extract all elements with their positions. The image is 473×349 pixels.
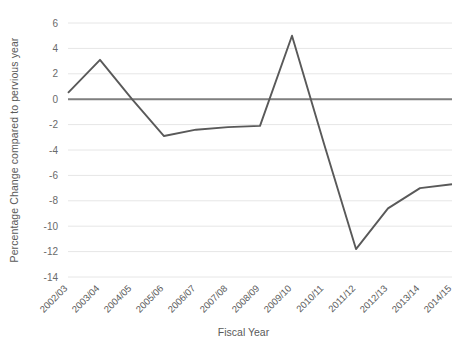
y-axis-ticks-group: 6420-2-4-6-8-10-12-14 — [44, 18, 59, 283]
x-axis-title-text: Fiscal Year — [218, 326, 269, 338]
plot-area: 6420-2-4-6-8-10-12-14 2002/032003/042004… — [0, 0, 473, 349]
x-axis-tick-label: 2005/06 — [133, 283, 165, 315]
y-axis-tick-label: -2 — [49, 119, 58, 130]
y-axis-tick-label: -8 — [49, 195, 58, 206]
data-line — [68, 36, 452, 249]
x-axis-tick-label: 2013/14 — [389, 283, 421, 315]
x-axis-tick-label: 2004/05 — [101, 283, 133, 315]
line-chart: Percentage Change compared to pervious y… — [0, 0, 473, 349]
y-axis-tick-label: 0 — [52, 94, 58, 105]
x-axis-ticks-group: 2002/032003/042004/052005/062006/072007/… — [37, 283, 453, 315]
gridlines-group — [68, 23, 452, 277]
x-axis-tick-label: 2007/08 — [197, 283, 229, 315]
y-axis-tick-label: -4 — [49, 145, 58, 156]
data-series-group — [68, 36, 452, 249]
x-axis-tick-label: 2003/04 — [69, 283, 101, 315]
x-axis-tick-label: 2010/11 — [294, 283, 326, 315]
y-axis-tick-label: 6 — [52, 18, 58, 29]
x-axis-tick-label: 2008/09 — [229, 283, 261, 315]
x-axis-tick-label: 2012/13 — [357, 283, 389, 315]
y-axis-tick-label: -12 — [44, 246, 59, 257]
y-axis-tick-label: 4 — [52, 43, 58, 54]
y-axis-tick-label: -6 — [49, 170, 58, 181]
y-axis-tick-label: -14 — [44, 272, 59, 283]
x-axis-title: Fiscal Year — [0, 326, 473, 338]
x-axis-tick-label: 2014/15 — [421, 283, 453, 315]
x-axis-tick-label: 2009/10 — [261, 283, 293, 315]
y-axis-tick-label: -10 — [44, 221, 59, 232]
x-axis-tick-label: 2011/12 — [326, 283, 358, 315]
x-axis-tick-label: 2006/07 — [165, 283, 197, 315]
x-axis-tick-label: 2002/03 — [37, 283, 69, 315]
y-axis-tick-label: 2 — [52, 68, 58, 79]
